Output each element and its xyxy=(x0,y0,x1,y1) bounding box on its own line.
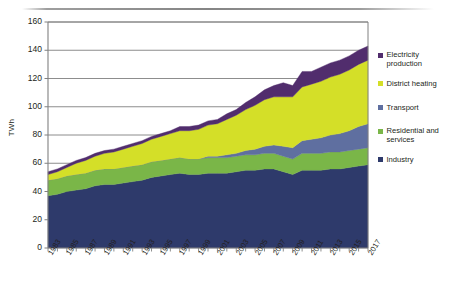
y-tick-label-120: 120 xyxy=(16,74,42,83)
y-tick-label-40: 40 xyxy=(16,187,42,196)
legend-item-industry[interactable]: Industry xyxy=(378,155,454,164)
legend-item-electricity-production[interactable]: Electricity production xyxy=(378,50,454,69)
legend-item-residential-and-services[interactable]: Residential and services xyxy=(378,126,454,145)
legend-item-label: Electricity production xyxy=(387,50,454,69)
y-tick-label-60: 60 xyxy=(16,158,42,167)
legend-item-transport[interactable]: Transport xyxy=(378,103,454,112)
y-axis-tick-labels: 020406080100120140160 xyxy=(14,0,42,291)
y-tick-label-140: 140 xyxy=(16,45,42,54)
y-axis-title: TWh xyxy=(7,105,16,151)
legend-swatch-icon xyxy=(378,157,383,162)
legend-item-label: Industry xyxy=(387,155,414,164)
legend-swatch-icon xyxy=(378,81,383,86)
legend-swatch-icon xyxy=(378,105,383,110)
y-tick-label-80: 80 xyxy=(16,130,42,139)
stacked-area-chart: 020406080100120140160 TWh 19831985198719… xyxy=(0,0,454,291)
y-tick-label-100: 100 xyxy=(16,102,42,111)
legend-item-label: Residential and services xyxy=(387,126,454,145)
y-tick-label-0: 0 xyxy=(16,243,42,252)
legend-swatch-icon xyxy=(378,129,383,134)
legend-swatch-icon xyxy=(378,53,383,58)
x-axis-tick-labels: 1983198519871989199119931995199719992001… xyxy=(0,252,454,291)
chart-legend: Electricity productionDistrict heatingTr… xyxy=(378,50,454,167)
legend-item-label: District heating xyxy=(387,79,437,88)
y-tick-label-160: 160 xyxy=(16,17,42,26)
legend-item-label: Transport xyxy=(387,103,419,112)
legend-item-district-heating[interactable]: District heating xyxy=(378,79,454,88)
y-tick-label-20: 20 xyxy=(16,215,42,224)
